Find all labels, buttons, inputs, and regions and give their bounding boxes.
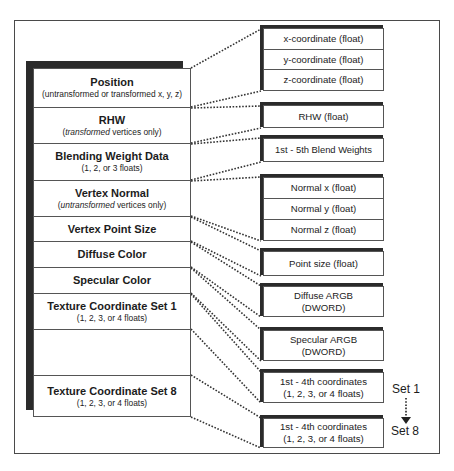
row-title: Texture Coordinate Set 8 [47, 385, 176, 398]
row-title: Specular Color [73, 274, 151, 287]
row-position: Position (untransformed or transformed x… [34, 69, 190, 108]
box-rhw: RHW (float) [263, 105, 384, 128]
cell-texcoord-set1: 1st - 4th coordinates (1, 2, 3, or 4 flo… [264, 373, 383, 402]
cell-x: x-coordinate (float) [264, 29, 383, 50]
row-subtitle: (1, 2, or 3 floats) [82, 163, 143, 174]
row-title: Diffuse Color [77, 248, 146, 261]
cell-normal-z: Normal z (float) [264, 220, 383, 240]
row-texcoord-1: Texture Coordinate Set 1 (1, 2, 3, or 4 … [34, 294, 190, 330]
row-title: RHW [99, 114, 125, 127]
cell-z: z-coordinate (float) [264, 70, 383, 90]
cell-specular: Specular ARGB (DWORD) [264, 331, 383, 360]
box-texcoord-set1: 1st - 4th coordinates (1, 2, 3, or 4 flo… [263, 372, 384, 403]
row-vertex-normal: Vertex Normal (untransformed vertices on… [34, 181, 190, 217]
row-title: Vertex Point Size [68, 223, 157, 236]
cell-normal-x: Normal x (float) [264, 178, 383, 199]
box-specular: Specular ARGB (DWORD) [263, 330, 384, 361]
vertex-format-stack: Position (untransformed or transformed x… [33, 68, 191, 417]
row-subtitle: (transformed vertices only) [62, 127, 161, 138]
row-subtitle: (untransformed or transformed x, y, z) [42, 89, 182, 100]
cell-rhw: RHW (float) [264, 106, 383, 127]
cell-normal-y: Normal y (float) [264, 199, 383, 220]
box-blend-weights: 1st - 5th Blend Weights [263, 138, 384, 162]
cell-point-size: Point size (float) [264, 252, 383, 275]
box-texcoord-set8: 1st - 4th coordinates (1, 2, 3, or 4 flo… [263, 418, 384, 448]
row-texcoord-gap [34, 330, 190, 376]
row-specular: Specular Color [34, 268, 190, 294]
row-blending-weight: Blending Weight Data (1, 2, or 3 floats) [34, 144, 190, 181]
row-diffuse: Diffuse Color [34, 242, 190, 268]
set-arrow-icon [401, 398, 411, 424]
box-xyz: x-coordinate (float) y-coordinate (float… [263, 28, 384, 91]
row-subtitle: (1, 2, 3, or 4 floats) [77, 313, 147, 324]
row-title: Vertex Normal [75, 187, 149, 200]
row-rhw: RHW (transformed vertices only) [34, 108, 190, 144]
set-label-end: Set 8 [391, 424, 419, 438]
box-diffuse: Diffuse ARGB (DWORD) [263, 286, 384, 317]
row-point-size: Vertex Point Size [34, 217, 190, 242]
cell-diffuse: Diffuse ARGB (DWORD) [264, 287, 383, 316]
row-title: Blending Weight Data [55, 150, 168, 163]
cell-blend: 1st - 5th Blend Weights [264, 139, 383, 161]
box-normal: Normal x (float) Normal y (float) Normal… [263, 177, 384, 241]
box-point-size: Point size (float) [263, 251, 384, 276]
set-label-start: Set 1 [392, 382, 420, 396]
row-title: Texture Coordinate Set 1 [47, 300, 176, 313]
row-subtitle: (1, 2, 3, or 4 floats) [77, 398, 147, 409]
row-subtitle: (untransformed vertices only) [58, 200, 166, 211]
row-title: Position [90, 76, 133, 89]
row-texcoord-8: Texture Coordinate Set 8 (1, 2, 3, or 4 … [34, 376, 190, 418]
cell-y: y-coordinate (float) [264, 50, 383, 71]
cell-texcoord-set8: 1st - 4th coordinates (1, 2, 3, or 4 flo… [264, 419, 383, 447]
